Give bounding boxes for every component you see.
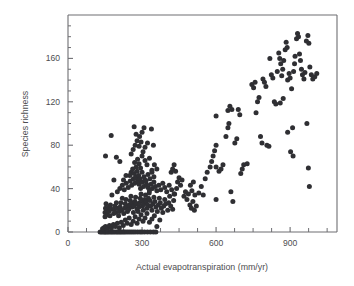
data-point	[208, 164, 213, 169]
data-point	[287, 71, 292, 76]
data-point	[220, 162, 225, 167]
data-point	[114, 155, 119, 160]
data-point	[124, 173, 129, 178]
data-point	[127, 215, 132, 220]
data-point	[172, 162, 177, 167]
data-point	[133, 195, 138, 200]
data-point	[266, 144, 271, 149]
data-point	[170, 207, 175, 212]
data-point	[292, 61, 297, 66]
data-point	[131, 147, 136, 152]
data-point	[124, 197, 129, 202]
data-point	[236, 107, 241, 112]
y-tick-label: 80	[50, 140, 60, 150]
data-point	[290, 125, 295, 130]
data-point	[306, 165, 311, 170]
data-point	[229, 107, 234, 112]
data-point	[240, 167, 245, 172]
data-point	[151, 180, 156, 185]
data-point	[212, 148, 217, 153]
data-point	[117, 159, 122, 164]
data-point	[230, 199, 235, 204]
data-point	[307, 184, 312, 189]
data-point	[162, 185, 167, 190]
data-point	[190, 199, 195, 204]
data-point	[280, 67, 285, 72]
data-point	[288, 75, 293, 80]
data-point	[211, 154, 216, 159]
data-point	[302, 70, 307, 75]
x-tick-label: 900	[283, 238, 298, 248]
data-point	[157, 218, 162, 223]
data-point	[284, 40, 289, 45]
data-point	[214, 197, 219, 202]
data-point	[209, 159, 214, 164]
data-point	[285, 130, 290, 135]
data-point	[139, 139, 144, 144]
data-point	[151, 195, 156, 200]
data-point	[165, 208, 170, 213]
data-point	[285, 45, 290, 50]
data-point	[255, 99, 260, 104]
data-point	[103, 154, 108, 159]
data-point	[184, 197, 189, 202]
data-point	[149, 208, 154, 213]
data-point	[154, 224, 159, 229]
y-tick-label: 0	[55, 227, 60, 237]
data-point	[171, 198, 176, 203]
data-point	[172, 192, 177, 197]
data-point	[149, 126, 154, 131]
data-point	[116, 213, 121, 218]
data-point	[149, 168, 154, 173]
data-point	[267, 56, 272, 61]
data-point	[191, 180, 196, 185]
data-point	[199, 184, 204, 189]
data-point	[167, 183, 172, 188]
x-tick-label: 600	[209, 238, 224, 248]
data-point	[140, 154, 145, 159]
data-point	[143, 158, 148, 163]
data-point	[226, 121, 231, 126]
data-point	[152, 162, 157, 167]
data-point	[238, 171, 243, 176]
data-point	[214, 143, 219, 148]
data-point	[307, 65, 312, 70]
data-point	[298, 58, 303, 63]
data-point	[174, 186, 179, 191]
data-point	[263, 84, 268, 89]
data-point	[291, 69, 296, 74]
data-point	[278, 100, 283, 105]
data-point	[129, 151, 134, 156]
data-point	[178, 183, 183, 188]
data-point	[219, 167, 224, 172]
data-point	[160, 181, 165, 186]
data-point	[262, 80, 267, 85]
data-point	[270, 75, 275, 80]
data-point	[201, 193, 206, 198]
data-point	[306, 41, 311, 46]
data-point	[173, 169, 178, 174]
data-point	[137, 144, 142, 149]
data-point	[276, 50, 281, 55]
data-point	[135, 221, 140, 226]
data-point	[152, 213, 157, 218]
data-point	[194, 203, 199, 208]
data-point	[289, 86, 294, 91]
data-point	[121, 177, 126, 182]
y-axis-title: Species richness	[20, 90, 30, 157]
data-point	[135, 157, 140, 162]
data-point	[305, 33, 310, 38]
data-point	[189, 188, 194, 193]
data-point	[157, 196, 162, 201]
data-point	[234, 136, 239, 141]
data-point	[151, 174, 156, 179]
data-point	[297, 52, 302, 57]
data-point	[140, 130, 145, 135]
data-point	[160, 210, 165, 215]
data-point	[108, 202, 113, 207]
data-point	[205, 170, 210, 175]
data-point	[142, 125, 147, 130]
data-point	[154, 167, 159, 172]
data-point	[314, 71, 319, 76]
data-point	[214, 113, 219, 118]
